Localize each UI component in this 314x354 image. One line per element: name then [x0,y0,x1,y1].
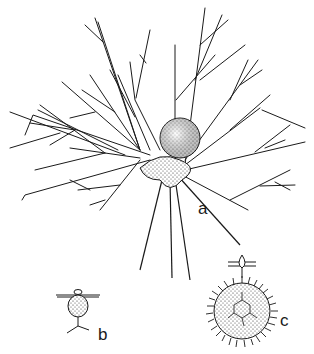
panel-label-c: c [280,312,289,329]
panel-b-organism [56,290,100,334]
illustration [0,0,314,354]
panel-c-organism [206,255,278,347]
panel-label-b: b [98,326,107,343]
panel-a-stalks [140,176,240,280]
panel-label-a: a [198,200,207,217]
